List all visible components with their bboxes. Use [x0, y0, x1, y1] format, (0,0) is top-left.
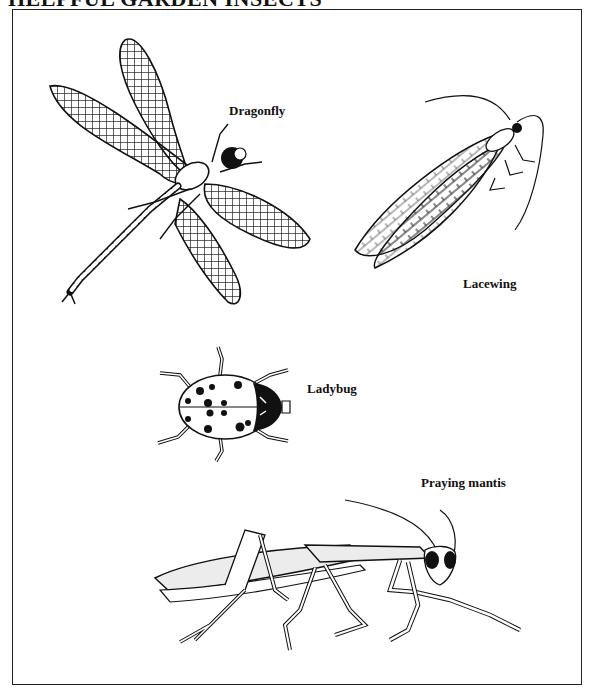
praying-mantis-illustration: [150, 490, 525, 650]
dragonfly-label: Dragonfly: [229, 103, 285, 119]
ladybug-illustration: [150, 345, 300, 465]
lacewing-label: Lacewing: [463, 276, 516, 292]
praying-mantis-label: Praying mantis: [421, 475, 506, 491]
lacewing-illustration: [345, 90, 550, 270]
dragonfly-illustration: [40, 34, 320, 310]
ladybug-label: Ladybug: [307, 381, 357, 397]
